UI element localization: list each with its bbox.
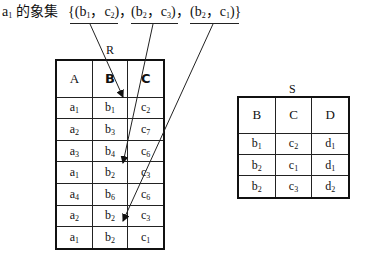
arrow-3-line	[123, 24, 213, 221]
arrow-overlay	[0, 0, 374, 262]
arrow-1-line	[90, 24, 123, 97]
arrow-2-line	[123, 24, 153, 163]
